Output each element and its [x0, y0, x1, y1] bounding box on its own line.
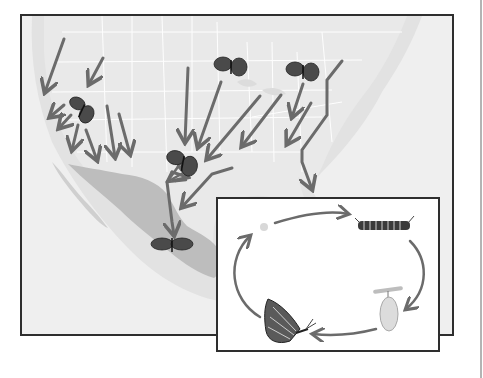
chrysalis-icon: [373, 286, 403, 331]
lifecycle-graphic: [218, 199, 438, 350]
adult-butterfly-icon: [265, 299, 316, 343]
egg-icon: [260, 223, 268, 231]
lifecycle-inset: [216, 197, 440, 352]
page-edge-divider: [480, 0, 482, 378]
caterpillar-icon: [355, 216, 414, 230]
